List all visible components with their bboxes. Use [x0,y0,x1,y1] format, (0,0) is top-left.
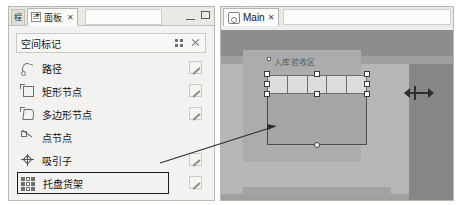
selection-handle-bottom-left[interactable] [264,91,270,97]
page-title: 空间标记 [21,36,169,51]
tab-collapsed-program[interactable]: 程 [11,9,25,25]
list-item-label: 矩形节点 [42,84,206,99]
tab-panel-label: 面板 [44,11,62,24]
edit-pencil-icon[interactable] [189,84,202,97]
list-item-polygon-node[interactable]: 多边形节点 [16,103,206,126]
list-item-label: 多边形节点 [42,107,206,122]
selection-handle-extend[interactable] [314,142,320,148]
panel-header[interactable]: 空间标记 [16,33,206,53]
edit-pencil-icon[interactable] [189,176,202,189]
pallet-rack-icon [20,176,38,192]
polygon-node-icon [20,107,37,122]
selection-handle-top-right[interactable] [364,71,370,77]
edit-pencil-icon[interactable] [189,107,202,120]
rectangle-node-icon [20,84,37,99]
zone-strip [243,187,391,196]
selection-handle-middle-left[interactable] [264,81,270,87]
arrow-right-icon [428,88,434,98]
window-controls [186,11,210,20]
left-dock-panel: 程 面板 ✕ 空间标记 路径 [8,6,215,201]
list-item-rectangle-node[interactable]: 矩形节点 [16,80,206,103]
selection-handle-bottom-right[interactable] [364,91,370,97]
rack-cell [327,76,347,93]
maximize-icon[interactable] [201,11,210,19]
list-item-label: 路径 [42,61,206,76]
list-item-label: 点节点 [42,130,206,145]
marker-list: 路径 矩形节点 多边形节点 点节点 吸引子 [16,57,206,194]
attractor-icon [20,153,37,168]
list-item-label: 托盘货架 [43,176,206,191]
gizmo-cross-bar [414,86,416,100]
move-horizontal-gizmo[interactable] [405,86,433,100]
close-icon[interactable]: ✕ [67,13,74,22]
path-icon [20,61,37,76]
view-icon [228,12,240,24]
rack-cell [288,76,308,93]
list-item-label: 吸引子 [42,153,206,168]
right-dock-panel: Main ✕ 入库验收区 [220,6,454,201]
tab-main[interactable]: Main ✕ [223,8,279,26]
main-tabstrip: Main ✕ [221,7,453,26]
tab-main-label: Main [243,12,265,23]
3d-viewport[interactable]: 入库验收区 [221,30,453,200]
list-item-point-node[interactable]: 点节点 [16,126,206,149]
left-dock-tabstrip: 程 面板 ✕ [9,7,214,26]
selection-handle-top-left[interactable] [264,71,270,77]
zone-label: 入库验收区 [274,56,316,67]
rack-cell [268,76,288,93]
selection-handle-top-center[interactable] [314,71,320,77]
zone-origin-handle[interactable] [267,57,271,61]
list-item-path[interactable]: 路径 [16,57,206,80]
tab-panel[interactable]: 面板 ✕ [27,8,78,26]
list-item-attractor[interactable]: 吸引子 [16,149,206,172]
zone-floor-rectangle[interactable] [267,93,367,145]
grid-view-icon[interactable] [174,38,185,48]
tabstrip-empty-area [85,9,162,25]
point-node-icon [20,130,37,145]
selection-handle-middle-right[interactable] [364,81,370,87]
floor-plane-dark [409,64,453,200]
close-icon[interactable]: ✕ [268,13,275,22]
arrow-left-icon [404,88,410,98]
list-item-pallet-rack[interactable]: 托盘货架 [16,172,206,195]
application-window: 程 面板 ✕ 空间标记 路径 [0,0,458,205]
edit-pencil-icon[interactable] [189,153,202,166]
edit-pencil-icon[interactable] [189,61,202,74]
expand-icon[interactable] [190,38,201,48]
selection-handle-bottom-center[interactable] [314,91,320,97]
main-tabstrip-empty-area [283,9,451,25]
minimize-icon[interactable] [186,11,195,20]
